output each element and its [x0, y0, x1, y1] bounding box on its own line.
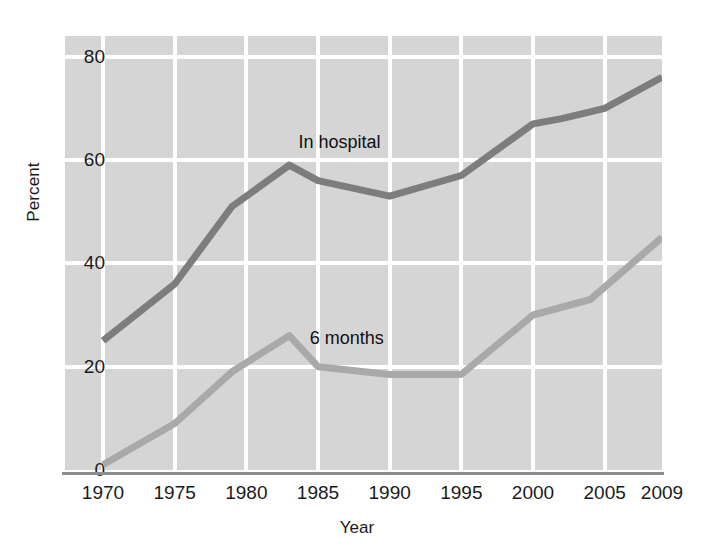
x-tick-label: 1990: [355, 482, 425, 504]
x-axis-line: [62, 472, 664, 475]
series-annotation: In hospital: [298, 131, 380, 152]
x-tick-label: 1985: [283, 482, 353, 504]
x-tick-label: 1980: [211, 482, 281, 504]
x-tick-label: 2000: [498, 482, 568, 504]
x-tick-label: 2009: [627, 482, 697, 504]
y-axis-title: Percent: [24, 112, 44, 272]
x-axis-title: Year: [0, 518, 714, 538]
x-tick-label: 1975: [140, 482, 210, 504]
plot-area: 806040200 In hospital6 months: [65, 36, 662, 470]
series-annotation: 6 months: [310, 328, 384, 349]
x-tick-label: 1970: [68, 482, 138, 504]
chart-figure: Percent 806040200 In hospital6 months 19…: [0, 0, 714, 560]
series-lines: [65, 36, 662, 470]
x-tick-label: 1995: [426, 482, 496, 504]
